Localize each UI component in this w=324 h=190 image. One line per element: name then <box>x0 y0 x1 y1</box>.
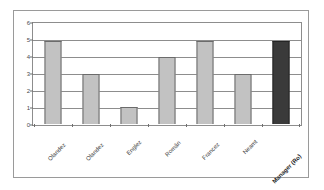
x-axis-label: Englez <box>125 139 142 156</box>
y-axis-tick <box>30 74 33 75</box>
y-axis-tick-label: 4 <box>27 54 30 60</box>
y-axis-tick <box>30 56 33 57</box>
bar-slot <box>262 24 300 124</box>
bar[interactable] <box>159 57 176 124</box>
x-axis-label: Olandez <box>85 142 105 162</box>
bars-group <box>34 24 300 124</box>
x-axis-label: Francez <box>201 141 221 161</box>
y-axis-tick-label: 3 <box>27 71 30 77</box>
y-axis-tick-label: 0 <box>27 122 30 128</box>
x-axis-label: Neamt <box>241 138 258 155</box>
y-axis-tick <box>30 23 33 24</box>
bar-chart: 0123456 <box>32 22 302 126</box>
bar-slot <box>110 24 148 124</box>
bar-slot <box>34 24 72 124</box>
bar[interactable] <box>273 41 290 124</box>
bar-slot <box>148 24 186 124</box>
y-axis-tick-label: 1 <box>27 105 30 111</box>
bar[interactable] <box>83 74 100 124</box>
y-axis-tick-label: 5 <box>27 37 30 43</box>
bar[interactable] <box>121 107 138 124</box>
y-axis-tick <box>30 108 33 109</box>
bar-slot <box>186 24 224 124</box>
bar-slot <box>224 24 262 124</box>
x-axis-label: Olandez <box>47 142 67 162</box>
bar-slot <box>72 24 110 124</box>
plot-area: 0123456 <box>32 22 302 126</box>
figure-frame: 0123456 OlandezOlandezEnglezRomânFrancez… <box>13 10 309 178</box>
y-axis-tick <box>30 39 33 40</box>
x-axis-label: Român <box>164 140 182 158</box>
bar[interactable] <box>45 41 62 124</box>
y-axis-tick-label: 6 <box>27 20 30 26</box>
x-axis-labels: OlandezOlandezEnglezRomânFrancezNeamtMan… <box>32 126 302 186</box>
y-axis-tick-label: 2 <box>27 88 30 94</box>
y-axis-tick <box>30 90 33 91</box>
bar[interactable] <box>197 41 214 124</box>
bar[interactable] <box>235 74 252 124</box>
x-axis-label: Manager (Ro) <box>271 153 302 184</box>
